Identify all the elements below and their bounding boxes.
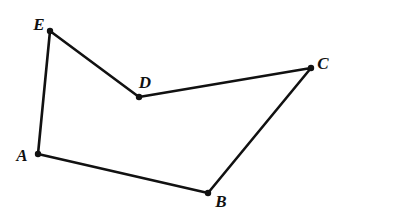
vertex-point-a (35, 151, 41, 157)
polygon-abcde (38, 31, 311, 193)
polygon-canvas (0, 0, 400, 218)
vertex-label-c: C (317, 55, 328, 72)
vertex-label-e: E (33, 16, 44, 33)
vertex-label-a: A (16, 147, 27, 164)
vertex-point-d (136, 94, 142, 100)
vertex-label-d: D (139, 74, 151, 91)
vertex-dot-group (35, 28, 314, 196)
vertex-point-b (205, 190, 211, 196)
geometry-figure: ABCDE (0, 0, 400, 218)
vertex-point-e (47, 28, 53, 34)
vertex-label-b: B (215, 193, 226, 210)
vertex-point-c (308, 65, 314, 71)
